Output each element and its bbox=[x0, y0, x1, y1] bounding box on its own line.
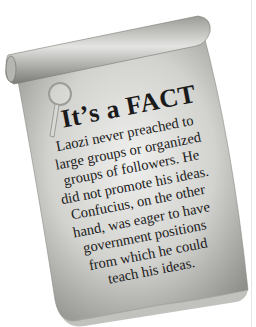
fact-text-block: It’s a FACT Laozi never preached to larg… bbox=[24, 76, 247, 298]
